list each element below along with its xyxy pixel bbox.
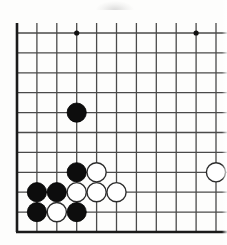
white-stone-c10-r7[interactable] [206,163,225,182]
star-point-top-right-icon [194,30,199,35]
white-stone-c4-r7[interactable] [87,163,106,182]
white-stone-c4-r8[interactable] [87,183,106,202]
black-stone-c3-r7[interactable] [67,163,86,182]
black-stone-c1-r8[interactable] [27,183,46,202]
go-board-canvas[interactable] [0,0,227,245]
black-stone-c1-r9[interactable] [27,203,46,222]
black-stone-c3-r4[interactable] [67,103,86,122]
white-stone-c2-r9[interactable] [47,203,66,222]
black-stone-c3-r9[interactable] [67,203,86,222]
white-stone-c5-r8[interactable] [107,183,126,202]
star-point-top-left-icon [74,30,79,35]
go-board-figure [0,0,227,245]
white-stone-c3-r8[interactable] [67,183,86,202]
black-stone-c2-r8[interactable] [47,183,66,202]
